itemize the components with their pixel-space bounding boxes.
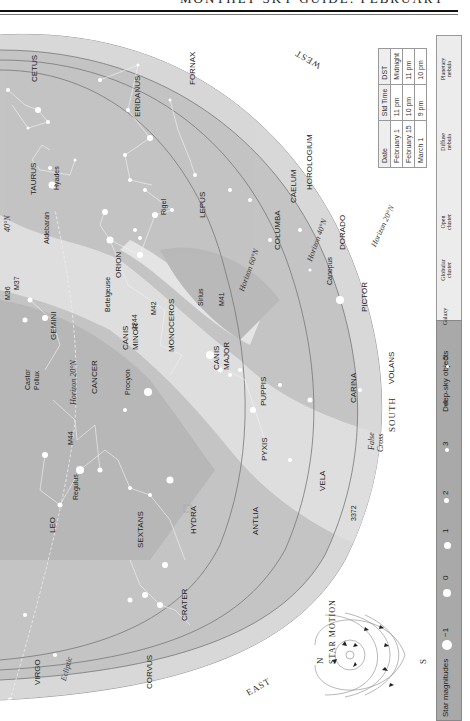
constellation-corvus: CORVUS xyxy=(146,655,154,689)
magnitude-dot xyxy=(443,589,451,597)
magnitude-label: 3 xyxy=(441,442,450,446)
magnitude-label: −1 xyxy=(441,628,450,637)
constellation-orion: ORION xyxy=(115,252,123,278)
constellation-horologium: HOROLOGIUM xyxy=(306,134,314,190)
constellation-pyxis: PYXIS xyxy=(261,437,269,461)
constellation-dorado: DORADO xyxy=(339,215,347,250)
constellation-canis-major-1: CANIS xyxy=(213,346,221,370)
dso-m44: M44 xyxy=(67,431,74,445)
table-cell: February 15 xyxy=(403,121,415,168)
legend-globular-cluster: Globular cluster xyxy=(440,255,452,285)
constellation-sextans: SEXTANS xyxy=(137,511,145,548)
constellation-carina: CARINA xyxy=(350,373,358,403)
star-sirius: Sirius xyxy=(197,288,204,306)
legend: Deep-sky objects Galaxy Globular cluster… xyxy=(436,15,470,719)
star-regulus: Regulus xyxy=(72,474,79,500)
legend-open-cluster: Open cluster xyxy=(440,209,452,235)
dso-m42: M42 xyxy=(150,301,157,315)
constellation-gemini: GEMINI xyxy=(50,312,58,340)
table-cell: 11 pm xyxy=(403,49,415,84)
constellation-taurus: TAURUS xyxy=(30,163,38,195)
star-aldebaran: Aldebaran xyxy=(43,212,50,244)
dso-ngc3372: 3372 xyxy=(350,505,357,521)
star-rigel: Rigel xyxy=(160,199,167,215)
magnitude-label: 0 xyxy=(441,576,450,580)
constellation-volans: VOLANS xyxy=(388,352,396,384)
constellation-canis-minor-1: CANIS xyxy=(122,326,130,350)
magnitude-label: 4 xyxy=(441,401,450,405)
legend-planetary-nebula: Planetary nebula xyxy=(440,53,452,85)
dso-ngc2244: 2244 xyxy=(131,314,138,330)
magnitude-dot xyxy=(446,365,449,368)
star-motion-north: N xyxy=(316,657,325,665)
table-cell: 11 pm xyxy=(391,84,403,121)
constellation-canis-major-2: MAJOR xyxy=(223,342,231,370)
constellation-cetus: CETUS xyxy=(31,55,39,82)
constellation-hydra: HYDRA xyxy=(190,506,198,534)
magnitude-dot xyxy=(444,498,449,503)
dso-m37: M37 xyxy=(13,276,20,290)
star-castor: Castor xyxy=(24,369,31,390)
star-motion-title: STAR MOTION xyxy=(328,599,337,664)
table-row: February 15 10 pm 11 pm xyxy=(403,49,415,168)
page-title: MONTHLY SKY GUIDE: FEBRUARY xyxy=(180,0,445,7)
table-cell: February 1 xyxy=(391,121,403,168)
horizon-label-20n: Horizon 20°N xyxy=(70,360,78,405)
constellation-eridanus: ERIDANUS xyxy=(134,76,142,117)
table-cell: 10 pm xyxy=(415,49,427,84)
constellation-vela: VELA xyxy=(319,471,327,491)
magnitude-label: 2 xyxy=(441,491,450,495)
star-hyades: Hyades xyxy=(53,166,60,190)
asterism-false-cross-1: False xyxy=(368,432,376,450)
table-cell: 10 pm xyxy=(403,84,415,121)
table-header: DST xyxy=(379,49,391,84)
star-procyon: Procyon xyxy=(124,369,131,395)
table-header: Date xyxy=(379,121,391,168)
magnitude-dot xyxy=(442,640,452,650)
star-betelgeuse: Betelgeuse xyxy=(104,277,111,312)
constellation-fornax: FORNAX xyxy=(189,52,197,85)
magnitude-dot xyxy=(444,542,451,549)
direction-south: SOUTH xyxy=(388,397,397,432)
constellation-puppis: PUPPIS xyxy=(260,377,268,406)
header-rule xyxy=(0,10,458,12)
constellation-crater: CRATER xyxy=(181,589,189,621)
magnitude-label: 5 xyxy=(441,356,450,360)
star-motion-south: S xyxy=(419,658,428,664)
legend-galaxy: Galaxy xyxy=(442,308,448,325)
dso-m41: M41 xyxy=(218,292,225,306)
constellation-pictor: PICTOR xyxy=(361,282,369,312)
table-row: March 1 9 pm 10 pm xyxy=(415,49,427,168)
constellation-antlia: ANTLIA xyxy=(252,507,260,535)
page-header: MONTHLY SKY GUIDE: FEBRUARY xyxy=(170,0,470,8)
horizon-label-40n-top: 40°N xyxy=(4,215,12,232)
constellation-columba: COLUMBA xyxy=(274,210,282,250)
star-canopus: Canopus xyxy=(326,257,333,285)
constellation-virgo: VIRGO xyxy=(34,659,42,685)
table-cell: March 1 xyxy=(415,121,427,168)
magnitude-label: 1 xyxy=(441,529,450,533)
legend-diffuse-nebula: Diffuse nebula xyxy=(440,129,452,155)
table-row: February 1 11 pm Midnight xyxy=(391,49,403,168)
constellation-lepus: LEPUS xyxy=(199,192,207,218)
table-header: Std Time xyxy=(379,84,391,121)
dso-m36: M36 xyxy=(4,286,11,300)
constellation-monoceros: MONOCEROS xyxy=(168,299,176,352)
magnitude-dot xyxy=(445,448,449,452)
constellation-leo: LEO xyxy=(49,517,57,533)
constellation-caelum: CAELUM xyxy=(290,170,298,203)
star-pollux: Pollux xyxy=(33,371,40,390)
asterism-false-cross-2: Cross xyxy=(377,434,385,452)
table-cell: Midnight xyxy=(391,49,403,84)
legend-magnitudes-label: Star magnitudes xyxy=(441,659,450,717)
constellation-cancer: CANCER xyxy=(91,360,99,394)
table-cell: 9 pm xyxy=(415,84,427,121)
